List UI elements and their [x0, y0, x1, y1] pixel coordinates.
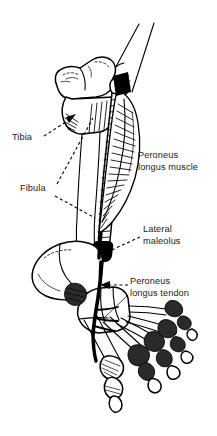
label-lateral-maleolus-line2: maleolus [143, 236, 181, 246]
label-peroneus-longus-muscle-line1: Peroneus [138, 150, 178, 160]
label-tibia: Tibia [12, 132, 33, 142]
peroneus-origin-dark [113, 72, 131, 96]
anatomy-illustration: Tibia Fibula Peroneus longus muscle Late… [0, 0, 217, 436]
label-fibula: Fibula [20, 183, 46, 193]
label-peroneus-longus-tendon-line1: Peroneus [130, 276, 170, 286]
label-lateral-maleolus-line1: Lateral [143, 224, 172, 234]
label-peroneus-longus-muscle-line2: longus muscle [138, 162, 198, 172]
anatomical-figure: Tibia Fibula Peroneus longus muscle Late… [0, 0, 217, 436]
tibia-proximal-body [62, 97, 114, 134]
label-peroneus-longus-tendon-line2: longus tendon [130, 288, 189, 298]
